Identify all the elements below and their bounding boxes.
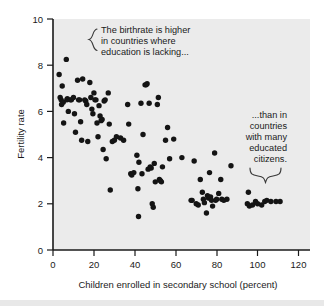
scatter-point (73, 129, 78, 134)
scatter-point (108, 187, 113, 192)
scatter-point (136, 214, 141, 219)
figure-page: 0 2 4 6 8 10 0 20 40 60 80 100 120 (0, 0, 324, 306)
scatter-point (77, 97, 82, 102)
scatter-point (167, 156, 172, 161)
scatter-point (78, 119, 83, 124)
annotation-right-line-1: ...than in (252, 110, 287, 120)
scatter-point (140, 132, 145, 137)
scatter-point (207, 170, 212, 175)
x-tick-label-40: 40 (130, 259, 141, 270)
scatter-point (151, 205, 156, 210)
y-tick-label-4: 4 (38, 152, 43, 163)
scatter-point (246, 190, 251, 195)
y-axis-title: Fertility rate (15, 109, 26, 159)
scatter-point (75, 78, 80, 83)
scatter-point (91, 90, 96, 95)
scatter-point (61, 120, 66, 125)
annotation-left-line-1: The birthrate is higher (101, 25, 190, 35)
scatter-point (102, 97, 107, 102)
scatter-point (85, 139, 90, 144)
scatter-point (100, 147, 105, 152)
scatter-point (191, 158, 196, 163)
annotation-right-line-4: educated (249, 143, 287, 153)
y-tick-label-0: 0 (38, 245, 43, 256)
scatter-point (90, 111, 95, 116)
scatter-chart-figure: 0 2 4 6 8 10 0 20 40 60 80 100 120 (0, 0, 324, 306)
scatter-point (210, 203, 215, 208)
scatter-point (80, 76, 85, 81)
scatter-point (125, 102, 130, 107)
scatter-point (60, 83, 65, 88)
scatter-point (146, 101, 151, 106)
scatter-point (131, 170, 136, 175)
x-tick-label-20: 20 (89, 259, 100, 270)
scatter-point (121, 138, 126, 143)
scatter-point (66, 109, 71, 114)
scatter-point (93, 97, 98, 102)
scatter-point (72, 111, 77, 116)
scatter-point (202, 200, 207, 205)
scatter-point (126, 121, 131, 126)
annotation-right-line-2: countries (250, 121, 288, 131)
scatter-point (138, 101, 143, 106)
scatter-point (171, 136, 176, 141)
scatter-point (84, 102, 89, 107)
scatter-point (214, 196, 219, 201)
scatter-point (268, 199, 273, 204)
y-tick-label-10: 10 (32, 14, 43, 25)
scatter-point (56, 72, 61, 77)
x-axis-title: Children enrolled in secondary school (p… (78, 279, 277, 290)
scatter-point (71, 95, 76, 100)
scatter-point (134, 153, 139, 158)
scatter-point (163, 138, 168, 143)
scatter-point (139, 171, 144, 176)
scatter-point (189, 198, 194, 203)
scatter-point (99, 117, 104, 122)
y-tick-label-2: 2 (38, 198, 43, 209)
scatter-point (149, 165, 154, 170)
scatter-point (200, 190, 205, 195)
x-tick-label-100: 100 (250, 259, 266, 270)
scatter-point (107, 121, 112, 126)
y-tick-label-6: 6 (38, 106, 43, 117)
annotation-left-line-2: in countries where (101, 36, 176, 46)
scatter-point (165, 125, 170, 130)
scatter-point (89, 106, 94, 111)
scatter-point (156, 95, 161, 100)
bottom-divider (0, 300, 324, 306)
scatter-point (224, 196, 229, 201)
scatter-point (106, 90, 111, 95)
scatter-point (179, 155, 184, 160)
scatter-point (159, 179, 164, 184)
scatter-point (196, 202, 201, 207)
y-tick-label-8: 8 (38, 60, 43, 71)
x-tick-label-60: 60 (171, 259, 182, 270)
annotation-left-line-3: education is lacking... (101, 47, 189, 57)
annotation-right-line-5: citizens. (254, 154, 287, 164)
scatter-point (95, 134, 100, 139)
scatter-point (135, 186, 140, 191)
scatter-point (87, 80, 92, 85)
annotation-right-line-3: with many (245, 132, 288, 142)
x-tick-label-80: 80 (212, 259, 223, 270)
scatter-point (160, 164, 165, 169)
scatter-point (204, 210, 209, 215)
scatter-point (198, 177, 203, 182)
scatter-point (155, 102, 160, 107)
x-tick-label-120: 120 (291, 259, 307, 270)
scatter-point (277, 199, 282, 204)
x-tick-label-0: 0 (50, 259, 55, 270)
scatter-point (64, 57, 69, 62)
scatter-point (96, 103, 101, 108)
scatter-point (228, 163, 233, 168)
scatter-point (79, 138, 84, 143)
scatter-point (136, 160, 141, 165)
scatter-point (212, 150, 217, 155)
scatter-point (216, 191, 221, 196)
scatter-point (103, 156, 108, 161)
scatter-point (144, 81, 149, 86)
scatter-point (218, 177, 223, 182)
scatter-point (152, 161, 157, 166)
